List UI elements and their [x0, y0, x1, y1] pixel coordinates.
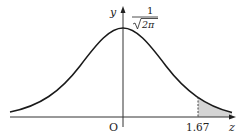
y-axis-label: y — [109, 6, 117, 19]
y-axis-arrow-icon — [121, 6, 126, 13]
origin-label: O — [109, 121, 118, 134]
marker-value-label: 1.67 — [186, 121, 209, 133]
fraction-denominator-radicand: 2π — [141, 19, 155, 30]
peak-value-label: 1 2π — [132, 5, 158, 30]
fraction-numerator: 1 — [147, 5, 153, 16]
normal-distribution-diagram: y z O 1.67 1 2π — [0, 0, 241, 137]
x-axis-label: z — [228, 121, 235, 134]
x-axis-arrow-icon — [229, 115, 236, 120]
